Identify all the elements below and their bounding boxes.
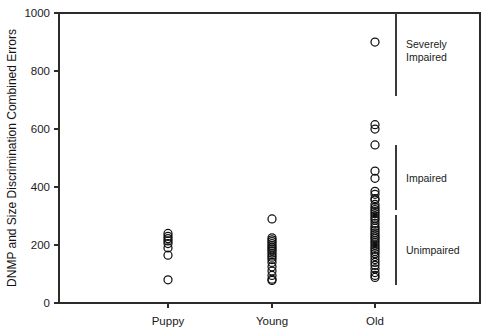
chart-canvas: 02004006008001000 DNMP and Size Discrimi…: [0, 0, 485, 331]
y-tick-label-1000: 1000: [24, 7, 50, 19]
x-axis-tick-labels: PuppyYoungOld: [152, 315, 384, 327]
annotation-label: Impaired: [406, 51, 447, 63]
y-tick-label-800: 800: [31, 65, 50, 77]
annotation-label: Severely: [406, 38, 448, 50]
annotation-label: Impaired: [406, 172, 447, 184]
y-tick-label-400: 400: [31, 181, 50, 193]
annotation-label: Unimpaired: [406, 244, 460, 256]
x-tick-label-puppy: Puppy: [152, 315, 185, 327]
x-tick-label-old: Old: [366, 315, 384, 327]
scatter-plot-figure: 02004006008001000 DNMP and Size Discrimi…: [0, 0, 485, 331]
y-axis-tick-labels: 02004006008001000: [24, 7, 50, 309]
y-axis-ticks: [54, 13, 59, 303]
y-axis-title: DNMP and Size Discrimination Combined Er…: [5, 29, 19, 287]
y-tick-label-200: 200: [31, 239, 50, 251]
data-points: [164, 38, 379, 284]
data-point: [371, 141, 379, 149]
data-point: [371, 38, 379, 46]
x-axis-ticks: [168, 303, 375, 308]
annotations: SeverelyImpairedImpairedUnimpaired: [396, 13, 460, 285]
x-tick-label-young: Young: [256, 315, 288, 327]
data-point: [164, 276, 172, 284]
data-point: [268, 215, 276, 223]
y-tick-label-0: 0: [44, 297, 50, 309]
y-tick-label-600: 600: [31, 123, 50, 135]
